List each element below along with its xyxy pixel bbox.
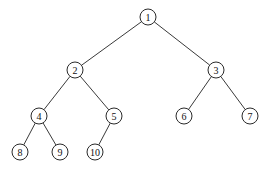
tree-node-8: 8 [12,144,28,160]
node-label: 5 [112,111,117,122]
tree-nodes: 12345678910 [12,9,258,160]
tree-node-6: 6 [176,108,192,124]
node-label: 2 [73,65,78,76]
tree-edge-1-3 [154,22,209,65]
tree-edge-3-6 [189,77,212,110]
tree-edge-2-4 [44,76,70,109]
tree-edge-3-7 [221,76,245,109]
tree-node-5: 5 [106,108,122,124]
node-label: 10 [90,147,100,158]
node-label: 6 [182,111,187,122]
node-label: 9 [58,147,63,158]
tree-node-1: 1 [140,9,156,25]
node-label: 4 [37,111,42,122]
tree-edge-4-9 [43,123,56,145]
tree-edge-2-5 [80,76,109,110]
node-label: 7 [248,111,253,122]
tree-node-4: 4 [31,108,47,124]
tree-node-9: 9 [52,144,68,160]
tree-node-2: 2 [67,62,83,78]
tree-edges [24,22,246,145]
tree-edge-4-8 [24,123,36,145]
tree-node-7: 7 [242,108,258,124]
tree-node-10: 10 [87,144,103,160]
node-label: 1 [146,12,151,23]
binary-tree-diagram: 12345678910 [0,0,269,170]
tree-edge-5-10 [99,123,111,145]
tree-edge-1-2 [81,22,141,66]
tree-node-3: 3 [208,62,224,78]
node-label: 8 [18,147,23,158]
node-label: 3 [214,65,219,76]
